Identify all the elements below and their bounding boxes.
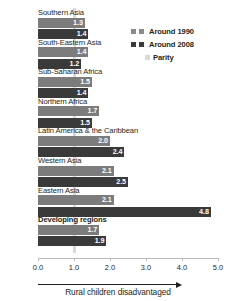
- bar-value-label: 1.4: [77, 47, 87, 57]
- category-label: South-Eastern Asia: [38, 38, 101, 47]
- bar: 1.9: [38, 236, 106, 246]
- legend-swatch-icon: [131, 42, 136, 47]
- category-label: Latin America & the Caribbean: [38, 126, 138, 135]
- legend-swatch-icon: [139, 29, 144, 34]
- bar: 2.1: [38, 166, 114, 176]
- category-label: Northern Africa: [38, 97, 87, 106]
- bar: 2.1: [38, 195, 114, 205]
- category-label: Sub-Saharan Africa: [38, 67, 102, 76]
- x-axis-tick: [146, 258, 147, 261]
- legend-swatch-icon: [145, 55, 150, 60]
- legend-item-around-1990: Around 1990: [131, 22, 236, 35]
- x-axis-tick: [182, 258, 183, 261]
- x-axis-tick-label: 4.0: [177, 263, 187, 272]
- category-label: Developing regions: [38, 215, 107, 224]
- bar-group: Developing regions1.71.9: [0, 215, 236, 245]
- x-axis-tick-label: 1.0: [69, 263, 79, 272]
- bar-group: Eastern Asia2.14.8: [0, 186, 236, 216]
- category-label: Eastern Asia: [38, 186, 79, 195]
- legend-item-parity: Parity: [131, 48, 236, 61]
- chart-figure: Southern Asia1.31.4South-Eastern Asia1.4…: [0, 0, 236, 301]
- bar-value-label: 1.7: [87, 225, 97, 235]
- x-axis-tick-label: 5.0: [213, 263, 223, 272]
- bar: 2.0: [38, 136, 110, 146]
- category-label: Western Asia: [38, 156, 81, 165]
- category-label: Southern Asia: [38, 8, 84, 17]
- bar-group: Western Asia2.12.5: [0, 156, 236, 186]
- x-axis-tick: [218, 258, 219, 261]
- bar-value-label: 2.1: [102, 166, 112, 176]
- x-axis-tick: [38, 258, 39, 261]
- bar-value-label: 2.0: [98, 136, 108, 146]
- legend-swatch-icon: [131, 29, 136, 34]
- chart-legend: Around 1990 Around 2008 Parity: [131, 22, 236, 61]
- bar-value-label: 1.5: [80, 77, 90, 87]
- x-axis-line: [38, 258, 218, 259]
- x-axis-tick-label: 0.0: [33, 263, 43, 272]
- bar-value-label: 1.7: [87, 106, 97, 116]
- x-axis-title: Rural children disadvantaged: [0, 287, 236, 297]
- bar-group: Latin America & the Caribbean2.02.4: [0, 126, 236, 156]
- bar: 1.7: [38, 106, 99, 116]
- bar: 1.3: [38, 18, 85, 28]
- x-axis-tick: [110, 258, 111, 261]
- x-axis-tick-label: 2.0: [105, 263, 115, 272]
- x-axis-tick-label: 3.0: [141, 263, 151, 272]
- bar-value-label: 2.1: [102, 195, 112, 205]
- bar-group: Northern Africa1.71.5: [0, 97, 236, 127]
- bar-value-label: 1.9: [95, 236, 105, 246]
- bar-group: Sub-Saharan Africa1.51.4: [0, 67, 236, 97]
- x-axis-tick: [74, 258, 75, 261]
- bar: 1.5: [38, 77, 92, 87]
- legend-label: Parity: [153, 53, 174, 62]
- bar: 1.7: [38, 225, 99, 235]
- legend-swatch-icon: [139, 42, 144, 47]
- legend-item-around-2008: Around 2008: [131, 35, 236, 48]
- bar: 1.4: [38, 47, 88, 57]
- bar-value-label: 1.3: [73, 18, 83, 28]
